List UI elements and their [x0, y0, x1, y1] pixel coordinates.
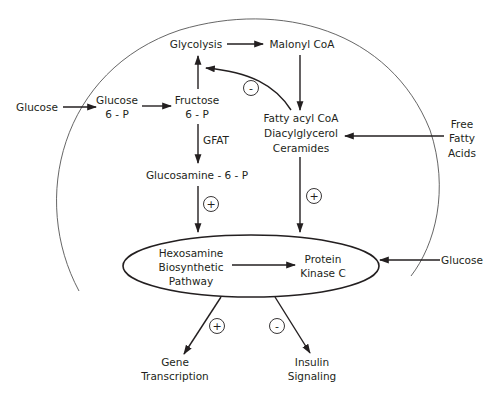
- svg-text:+: +: [212, 320, 221, 333]
- label-fructose-6p-2: 6 - P: [185, 108, 208, 120]
- svg-text:+: +: [206, 198, 215, 211]
- inhibit-sign-insulin: -: [270, 319, 285, 334]
- svg-text:-: -: [249, 82, 253, 95]
- label-fructose-6p-1: Fructose: [175, 94, 220, 106]
- pathway-diagram: - + + + - Glucose Glucose 6 - P Fructose…: [0, 0, 490, 396]
- label-glucose-6p-1: Glucose: [96, 94, 138, 106]
- label-glycolysis: Glycolysis: [170, 38, 222, 50]
- label-kinase-c: Kinase C: [300, 267, 346, 279]
- label-free: Free: [451, 118, 473, 130]
- svg-text:+: +: [309, 190, 318, 203]
- label-gene: Gene: [161, 356, 189, 368]
- label-glucose-left: Glucose: [16, 101, 58, 113]
- activate-sign-gene: +: [210, 319, 225, 334]
- activate-sign-lipids: +: [307, 189, 322, 204]
- label-signaling: Signaling: [288, 370, 337, 382]
- label-acids: Acids: [448, 147, 476, 159]
- label-ceramides: Ceramides: [273, 142, 329, 154]
- label-gfat: GFAT: [203, 134, 230, 146]
- label-hexosamine: Hexosamine: [159, 247, 224, 259]
- cell-membrane: [57, 19, 440, 291]
- inhibit-sign-malonyl: -: [244, 81, 259, 96]
- activate-sign-glucosamine: +: [204, 197, 219, 212]
- label-glucose-6p-2: 6 - P: [105, 108, 128, 120]
- label-fatty-acyl-coa: Fatty acyl CoA: [264, 112, 340, 124]
- label-glucose-right: Glucose: [441, 254, 483, 266]
- label-transcription: Transcription: [140, 370, 209, 382]
- label-glucosamine-6p: Glucosamine - 6 - P: [146, 169, 248, 181]
- label-fatty: Fatty: [449, 132, 475, 144]
- label-diacylglycerol: Diacylglycerol: [264, 127, 338, 139]
- label-pathway: Pathway: [169, 275, 213, 287]
- label-insulin: Insulin: [295, 356, 329, 368]
- label-protein: Protein: [305, 253, 342, 265]
- label-biosynthetic: Biosynthetic: [159, 261, 224, 273]
- label-malonyl-coa: Malonyl CoA: [270, 38, 336, 50]
- svg-text:-: -: [275, 320, 279, 333]
